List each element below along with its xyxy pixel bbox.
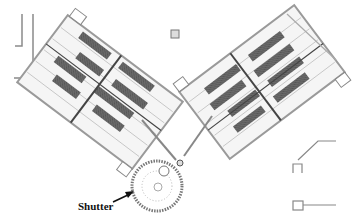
right-hall — [173, 0, 351, 167]
shutter-wheel — [132, 160, 183, 211]
arrow-head — [125, 191, 134, 198]
diagram-canvas — [0, 0, 353, 224]
square-symbol — [293, 201, 303, 210]
left-hall — [11, 7, 189, 177]
u-symbol — [293, 164, 302, 173]
corner-line — [298, 141, 336, 160]
beam-line-right — [184, 116, 212, 156]
shutter-label: Shutter — [78, 200, 113, 212]
facility-diagram: Shutter — [0, 0, 353, 224]
small-target — [171, 30, 179, 38]
